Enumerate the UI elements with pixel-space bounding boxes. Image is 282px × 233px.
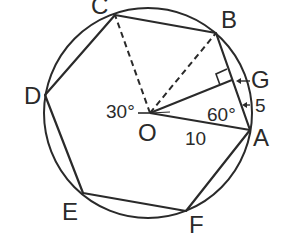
label-angle-60: 60° — [207, 104, 236, 125]
label-length-5: 5 — [255, 95, 266, 116]
label-center-o: O — [138, 119, 157, 146]
label-length-10: 10 — [185, 128, 206, 149]
dashed-radius-ob — [150, 33, 216, 113]
label-angle-30: 30° — [106, 101, 135, 122]
label-vertex-a: A — [253, 124, 269, 151]
label-point-g: G — [251, 66, 270, 93]
geometry-diagram: C B D A E F G O 30° 60° 5 10 — [0, 0, 282, 233]
arrow-g-head — [236, 78, 241, 84]
label-vertex-b: B — [221, 6, 237, 33]
label-vertex-f: F — [189, 211, 204, 233]
label-vertex-e: E — [62, 198, 78, 225]
label-vertex-d: D — [24, 82, 41, 109]
dashed-radius-oc — [115, 15, 150, 113]
label-vertex-c: C — [91, 0, 108, 19]
